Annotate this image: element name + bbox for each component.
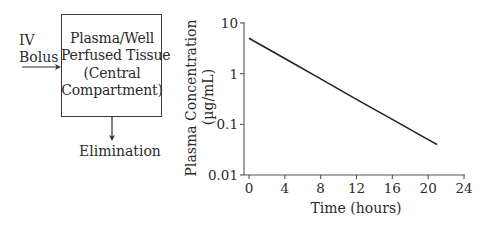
figure-canvas: 1010.10.01 04812162024 Time (hours) Plas… — [0, 0, 491, 225]
x-axis-title: Time (hours) — [310, 200, 401, 216]
y-axis-title-line2: (µg/mL) — [200, 69, 216, 125]
x-tick-label: 24 — [455, 180, 472, 196]
x-tick-label: 4 — [281, 180, 290, 196]
y-tick-label: 1 — [229, 66, 238, 82]
elimination-arrow-icon — [109, 117, 115, 141]
concentration-line — [249, 38, 437, 144]
input-arrow-icon — [22, 64, 61, 70]
x-tick-label: 8 — [316, 180, 325, 196]
x-tick-label: 12 — [348, 180, 365, 196]
x-tick-label: 16 — [384, 180, 401, 196]
x-tick-label: 20 — [420, 180, 437, 196]
y-tick-label: 0.1 — [217, 116, 238, 132]
x-ticks: 04812162024 — [245, 175, 473, 196]
x-tick-label: 0 — [245, 180, 254, 196]
y-tick-label: 10 — [221, 15, 238, 31]
y-tick-label: 0.01 — [208, 167, 238, 183]
y-axis-title-line1: Plasma Concentration — [183, 19, 199, 176]
